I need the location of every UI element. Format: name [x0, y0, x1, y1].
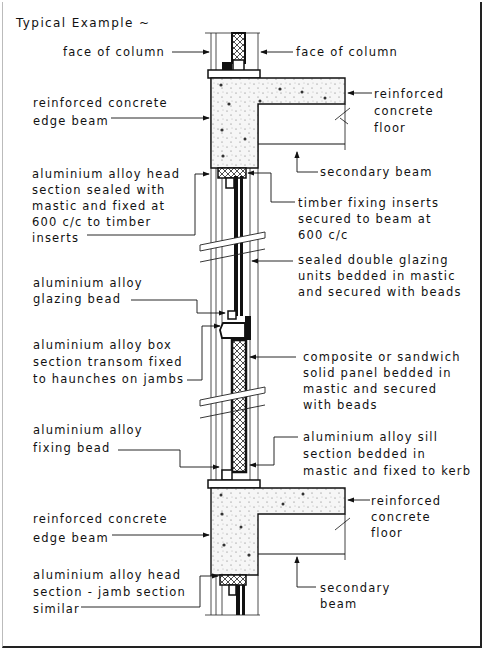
label-composite-panel: composite or sandwich solid panel bedded… — [303, 349, 461, 413]
label-face-of-column-left: face of column — [63, 44, 165, 60]
label-al-head-jamb-bottom: aluminium alloy head section - jamb sect… — [33, 567, 186, 618]
drawing-title: Typical Example ~ — [16, 16, 150, 30]
label-sealed-double-glazing: sealed double glazing units bedded in ma… — [298, 252, 462, 300]
label-rc-floor-bottom: reinforced concrete floor — [371, 493, 441, 541]
label-al-head-section: aluminium alloy head section sealed with… — [32, 166, 180, 246]
label-al-sill-section: aluminium alloy sill section bedded in m… — [303, 429, 471, 480]
label-rc-edge-beam-bottom: reinforced concrete edge beam — [33, 510, 168, 548]
label-al-glazing-bead: aluminium alloy glazing bead — [33, 275, 143, 307]
label-rc-edge-beam-top: reinforced concrete edge beam — [33, 94, 168, 130]
label-secondary-beam-top: secondary beam — [320, 164, 433, 180]
label-secondary-beam-bottom: secondary beam — [320, 580, 390, 612]
label-rc-floor-top: reinforced concrete floor — [374, 86, 444, 137]
label-face-of-column-right: face of column — [296, 44, 398, 60]
label-al-fixing-bead: aluminium alloy fixing bead — [33, 421, 143, 457]
label-timber-fixing-inserts: timber fixing inserts secured to beam at… — [298, 195, 439, 243]
label-al-box-transom: aluminium alloy box section transom fixe… — [33, 337, 184, 388]
